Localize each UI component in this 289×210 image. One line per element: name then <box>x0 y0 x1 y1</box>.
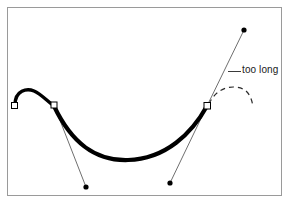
handle-dot-lower-right[interactable] <box>167 180 172 185</box>
anchor-point-2[interactable] <box>51 102 57 108</box>
anchor-point-3[interactable] <box>204 103 211 110</box>
figure-canvas: too long <box>0 0 289 210</box>
bezier-diagram-svg <box>0 0 289 210</box>
handle-dot-lower-left[interactable] <box>83 184 88 189</box>
handle-dot-upper-right[interactable] <box>241 27 246 32</box>
annotation-too-long-label: too long <box>242 64 278 76</box>
anchor-point-1[interactable] <box>12 103 18 109</box>
